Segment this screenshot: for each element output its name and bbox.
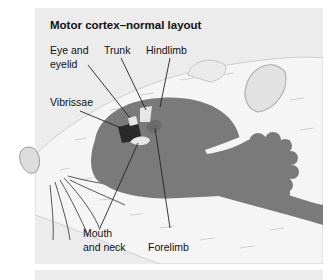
label-mouth-and-neck: Mouth and neck [83,226,126,254]
label-mouth-line2: and neck [83,240,126,254]
label-eye-and-eyelid: Eye and eyelid [50,43,89,71]
label-mouth-line1: Mouth [83,226,126,240]
label-forelimb: Forelimb [148,240,189,254]
label-trunk: Trunk [104,43,130,57]
label-vibrissae: Vibrissae [50,95,93,109]
rat-nose [20,147,40,173]
label-eye-line1: Eye and [50,43,89,57]
figure-title: Motor cortex–normal layout [50,19,201,31]
label-hindlimb: Hindlimb [146,43,187,57]
label-eye-line2: eyelid [50,57,89,71]
trunk-region [140,106,152,122]
